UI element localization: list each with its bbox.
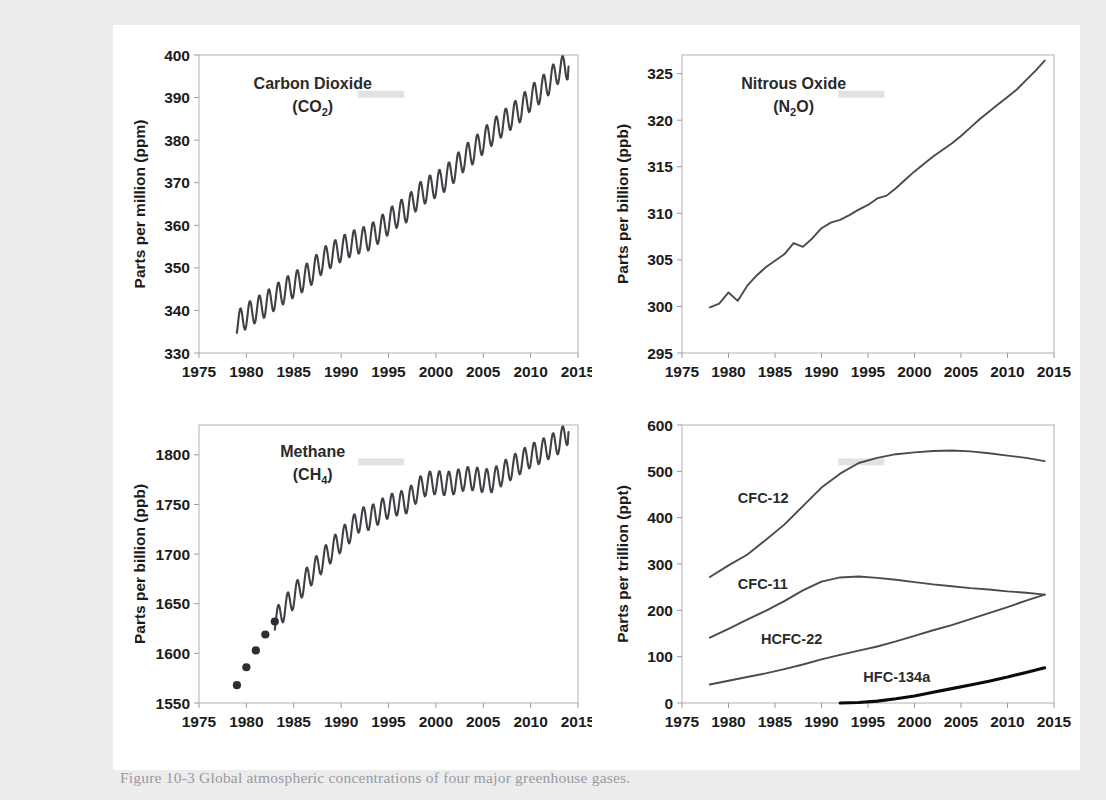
- y-tick-label: 300: [647, 556, 673, 573]
- y-tick-label: 1600: [156, 645, 190, 662]
- y-axis: 155016001650170017501800: [156, 446, 199, 711]
- series-title-line1: Methane: [280, 443, 345, 460]
- y-tick-label: 350: [164, 259, 190, 276]
- x-axis: 197519801985199019952000200520102015: [665, 703, 1072, 730]
- y-axis-title: Parts per billion (ppb): [614, 124, 631, 284]
- y-tick-label: 400: [647, 509, 673, 526]
- chart-panel-methane: 1550160016501700175018001975198019851990…: [113, 395, 592, 745]
- x-axis: 197519801985199019952000200520102015: [182, 703, 592, 730]
- y-tick-label: 315: [647, 158, 673, 175]
- chart-svg-ch4: 1550160016501700175018001975198019851990…: [113, 395, 592, 745]
- x-tick-label: 1995: [371, 713, 406, 730]
- y-tick-label: 300: [647, 298, 673, 315]
- x-axis: 197519801985199019952000200520102015: [665, 353, 1072, 380]
- x-tick-label: 2010: [513, 363, 547, 380]
- x-tick-label: 1975: [182, 713, 217, 730]
- series-title-line1: Carbon Dioxide: [254, 75, 372, 92]
- chart-panel-halocarbons: 0100200300400500600197519801985199019952…: [592, 395, 1080, 745]
- y-tick-label: 500: [647, 463, 673, 480]
- data-point-marker: [271, 617, 279, 625]
- x-tick-label: 2000: [897, 363, 931, 380]
- x-tick-label: 1995: [851, 713, 886, 730]
- x-tick-label: 1990: [804, 713, 838, 730]
- x-tick-label: 2005: [466, 363, 501, 380]
- y-axis: 295300305310315320325: [647, 65, 682, 361]
- y-tick-label: 1750: [156, 496, 190, 513]
- y-tick-label: 1550: [156, 695, 190, 712]
- x-tick-label: 2010: [990, 713, 1024, 730]
- x-tick-label: 2005: [466, 713, 501, 730]
- chart-svg-halocarbons: 0100200300400500600197519801985199019952…: [592, 395, 1080, 745]
- series-title-line1: Nitrous Oxide: [741, 75, 846, 92]
- chart-panel-nitrous-oxide: 2953003053103153203251975198019851990199…: [592, 25, 1080, 395]
- chart-panel-carbon-dioxide: 3303403503603703803904001975198019851990…: [113, 25, 592, 395]
- chart-svg-n2o: 2953003053103153203251975198019851990199…: [592, 25, 1080, 395]
- x-tick-label: 2005: [944, 363, 979, 380]
- series-label-hfc-134a: HFC-134a: [863, 669, 931, 685]
- y-tick-label: 305: [647, 251, 673, 268]
- chart-svg-co2: 3303403503603703803904001975198019851990…: [113, 25, 592, 395]
- x-tick-label: 2015: [1037, 363, 1072, 380]
- x-tick-label: 2015: [1037, 713, 1072, 730]
- y-tick-label: 400: [164, 47, 190, 64]
- series-title-line2: (CH4): [293, 466, 333, 486]
- y-tick-label: 200: [647, 602, 673, 619]
- y-tick-label: 360: [164, 217, 190, 234]
- x-tick-label: 1980: [711, 713, 745, 730]
- scan-artifacts: [358, 458, 404, 465]
- series-label-cfc-11: CFC-11: [738, 576, 788, 592]
- x-tick-label: 2010: [513, 713, 547, 730]
- x-tick-label: 2015: [561, 713, 592, 730]
- data-point-marker: [242, 663, 250, 671]
- x-tick-label: 1990: [804, 363, 838, 380]
- x-tick-label: 1975: [182, 363, 217, 380]
- x-tick-label: 1985: [758, 363, 793, 380]
- x-tick-label: 1975: [665, 713, 700, 730]
- y-axis-title: Parts per billion (ppb): [131, 484, 148, 644]
- x-tick-label: 1980: [229, 363, 263, 380]
- x-tick-label: 1995: [851, 363, 886, 380]
- series-title-line2: (CO2): [292, 98, 333, 118]
- series-label-hcfc-22: HCFC-22: [761, 631, 822, 647]
- y-tick-label: 340: [164, 302, 190, 319]
- y-axis-title: Parts per trillion (ppt): [614, 485, 631, 643]
- x-tick-label: 2010: [990, 363, 1024, 380]
- y-tick-label: 100: [647, 648, 673, 665]
- x-axis: 197519801985199019952000200520102015: [182, 353, 592, 380]
- panel-grid: 3303403503603703803904001975198019851990…: [113, 25, 1080, 745]
- figure-sheet: 3303403503603703803904001975198019851990…: [113, 25, 1080, 770]
- y-tick-label: 390: [164, 89, 190, 106]
- y-tick-label: 1700: [156, 546, 190, 563]
- x-tick-label: 2000: [419, 363, 453, 380]
- x-tick-label: 1990: [324, 713, 358, 730]
- figure-caption-strip: Figure 10-3 Global atmospheric concentra…: [0, 772, 1106, 800]
- data-point-marker: [261, 630, 269, 638]
- x-tick-label: 1985: [277, 713, 312, 730]
- y-tick-label: 330: [164, 345, 190, 362]
- x-tick-label: 1990: [324, 363, 358, 380]
- series-label-cfc-12: CFC-12: [738, 490, 789, 506]
- plot-frame: [199, 55, 578, 353]
- x-tick-label: 2005: [944, 713, 979, 730]
- y-tick-label: 310: [647, 205, 673, 222]
- x-tick-label: 2000: [419, 713, 453, 730]
- data-point-marker: [233, 681, 241, 689]
- x-tick-label: 1980: [711, 363, 745, 380]
- x-tick-label: 1975: [665, 363, 700, 380]
- y-tick-label: 1650: [156, 595, 190, 612]
- y-axis-title: Parts per million (ppm): [131, 120, 148, 289]
- x-tick-label: 1995: [371, 363, 406, 380]
- plot-frame: [682, 425, 1054, 703]
- data-point-marker: [252, 646, 260, 654]
- y-tick-label: 295: [647, 345, 673, 362]
- y-axis: 0100200300400500600: [647, 417, 682, 712]
- y-tick-label: 320: [647, 112, 673, 129]
- y-axis: 330340350360370380390400: [164, 47, 199, 362]
- y-tick-label: 370: [164, 174, 190, 191]
- y-tick-label: 380: [164, 132, 190, 149]
- y-tick-label: 1800: [156, 446, 190, 463]
- x-tick-label: 1985: [277, 363, 312, 380]
- x-tick-label: 1980: [229, 713, 263, 730]
- x-tick-label: 1985: [758, 713, 793, 730]
- y-tick-label: 0: [664, 695, 673, 712]
